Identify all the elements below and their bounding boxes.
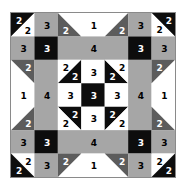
- piece-number-label: 2: [110, 73, 116, 82]
- piece-number-label: 2: [119, 63, 125, 72]
- piece-number-label: 3: [44, 162, 50, 171]
- piece-number-label: 2: [16, 17, 22, 26]
- piece-number-label: 2: [156, 63, 162, 72]
- piece-number-label: 3: [138, 45, 144, 54]
- piece-number-label: 2: [63, 157, 69, 166]
- piece-number-label: 2: [25, 157, 31, 166]
- piece-number-label: 3: [91, 115, 97, 124]
- piece-number-label: 3: [161, 45, 167, 54]
- piece-number-label: 2: [16, 166, 22, 175]
- piece-number-label: 3: [114, 92, 120, 101]
- piece-number-label: 3: [21, 45, 27, 54]
- piece-number-label: 3: [91, 68, 97, 77]
- piece-number-label: 2: [72, 110, 78, 119]
- piece-number-label: 3: [67, 92, 73, 101]
- piece-number-label: 2: [156, 26, 162, 35]
- piece-number-label: 4: [138, 92, 144, 101]
- piece-number-label: 2: [25, 26, 31, 35]
- piece-number-label: 3: [91, 92, 97, 101]
- piece-number-label: 3: [44, 138, 50, 147]
- piece-number-label: 2: [63, 26, 69, 35]
- piece-number-label: 3: [138, 138, 144, 147]
- piece-number-label: 2: [25, 120, 31, 129]
- piece-number-label: 1: [161, 92, 167, 101]
- piece-number-label: 2: [119, 26, 125, 35]
- piece-number-label: 2: [156, 157, 162, 166]
- piece-number-label: 2: [166, 17, 172, 26]
- piece-number-label: 3: [44, 45, 50, 54]
- piece-number-label: 2: [63, 63, 69, 72]
- piece-number-label: 2: [25, 63, 31, 72]
- quilt-block-diagram: 2232123223343321242232233322322421233433…: [10, 12, 176, 178]
- piece-number-label: 2: [119, 157, 125, 166]
- piece-number-label: 2: [63, 120, 69, 129]
- piece-number-label: 1: [91, 21, 97, 30]
- piece-number-label: 1: [91, 162, 97, 171]
- piece-number-label: 2: [119, 120, 125, 129]
- piece-number-label: 4: [44, 92, 50, 101]
- piece-number-label: 3: [21, 138, 27, 147]
- piece-number-label: 3: [44, 21, 50, 30]
- piece-number-label: 2: [110, 110, 116, 119]
- piece-number-label: 2: [156, 120, 162, 129]
- piece-number-label: 2: [166, 166, 172, 175]
- piece-number-label: 4: [91, 138, 97, 147]
- piece-number-label: 3: [161, 138, 167, 147]
- piece-number-label: 2: [72, 73, 78, 82]
- piece-number-label: 1: [21, 92, 27, 101]
- piece-number-label: 3: [138, 162, 144, 171]
- piece-number-label: 4: [91, 45, 97, 54]
- piece-number-label: 3: [138, 21, 144, 30]
